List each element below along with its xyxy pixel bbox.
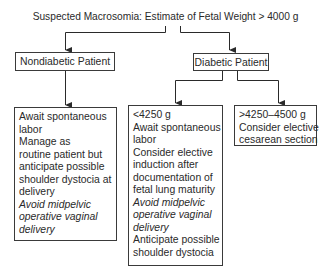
text-line: labor	[19, 124, 113, 137]
node-diabetic-over-4250: >4250–4500 g Consider elective cesarean …	[234, 105, 317, 146]
text-line: labor	[133, 134, 219, 147]
text-line: Manage as	[19, 136, 113, 149]
flowchart-title: Suspected Macrosomia: Estimate of Fetal …	[0, 11, 331, 22]
node-label: Diabetic Patient	[195, 57, 268, 68]
node-label: Nondiabetic Patient	[20, 56, 110, 67]
text-line-italic: delivery	[133, 222, 219, 235]
node-nondiabetic-patient: Nondiabetic Patient	[15, 52, 115, 71]
text-line: routine patient but	[19, 149, 113, 162]
text-line: fetal lung maturity	[133, 184, 219, 197]
text-line: delivery	[19, 186, 113, 199]
text-line: Anticipate possible	[133, 234, 219, 247]
text-line: >4250–4500 g	[239, 109, 313, 122]
text-line: <4250 g	[133, 109, 219, 122]
text-line: documentation of	[133, 172, 219, 185]
connector-diabetic-to-under4250	[176, 70, 223, 103]
text-line: induction after	[133, 159, 219, 172]
text-line: shoulder dystocia	[133, 247, 219, 260]
text-line-italic: Avoid midpelvic	[133, 197, 219, 210]
text-line: Await spontaneous	[19, 111, 113, 124]
text-line: Await spontaneous	[133, 122, 219, 135]
text-line: cesarean section	[239, 134, 313, 147]
text-line-italic: delivery	[19, 224, 113, 237]
text-line: Consider elective	[239, 122, 313, 135]
node-nondiabetic-management: Await spontaneous labor Manage as routin…	[14, 107, 117, 241]
text-line-italic: operative vaginal	[19, 211, 113, 224]
text-line-italic: operative vaginal	[133, 209, 219, 222]
connector-diabetic-to-over4250	[238, 70, 279, 103]
text-line-italic: Avoid midpelvic	[19, 199, 113, 212]
connector-title-to-diabetic	[181, 26, 230, 50]
text-line: anticipate possible	[19, 161, 113, 174]
text-line: shoulder dystocia at	[19, 174, 113, 187]
text-line: Consider elective	[133, 147, 219, 160]
connector-title-to-nondiabetic	[66, 26, 166, 50]
node-diabetic-under-4250: <4250 g Await spontaneous labor Consider…	[128, 105, 223, 266]
node-diabetic-patient: Diabetic Patient	[193, 53, 269, 71]
